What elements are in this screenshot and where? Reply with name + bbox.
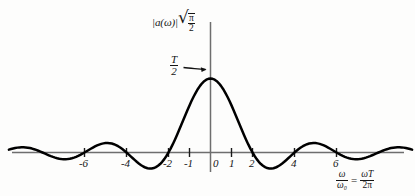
omega-over-omega0-fraction: ω ω₀ xyxy=(336,170,348,190)
t-over-2-fraction: T 2 xyxy=(170,54,178,77)
two-denominator: 2 xyxy=(170,66,178,77)
peak-arrow-icon xyxy=(184,67,207,72)
two-pi-denominator: 2π xyxy=(360,181,374,191)
y-axis-magnitude-text: |a(ω)| xyxy=(152,17,178,28)
omega-t-over-2pi-fraction: ωT 2π xyxy=(360,170,374,190)
x-tick-label--2: -2 xyxy=(163,158,172,169)
x-tick-label-6: 6 xyxy=(333,158,338,169)
y-axis-label: |a(ω)| √ π 2 xyxy=(152,11,195,34)
x-tick-label--4: -4 xyxy=(121,158,130,169)
pi-over-2-fraction: π 2 xyxy=(188,14,195,34)
x-tick-label--6: -6 xyxy=(79,158,88,169)
two-denominator: 2 xyxy=(188,24,195,34)
x-tick-label-0: 0 xyxy=(213,158,218,169)
radicand: π 2 xyxy=(188,13,195,34)
omega0-denominator: ω₀ xyxy=(336,181,348,191)
x-tick-label-4: 4 xyxy=(291,158,296,169)
x-axis-caption: ω ω₀ = ωT 2π xyxy=(336,170,374,190)
plot-canvas xyxy=(0,0,415,196)
equals-sign: = xyxy=(351,175,357,186)
peak-value-annotation: T 2 xyxy=(170,54,178,77)
x-tick-label-1: 1 xyxy=(229,158,234,169)
x-tick-label-2: 2 xyxy=(249,158,254,169)
sqrt-pi-over-2: √ π 2 xyxy=(178,11,195,34)
figure-container: |a(ω)| √ π 2 T 2 -6 -4 -2 -1 0 1 2 4 6 ω… xyxy=(0,0,415,196)
x-tick-label--1: -1 xyxy=(184,158,193,169)
